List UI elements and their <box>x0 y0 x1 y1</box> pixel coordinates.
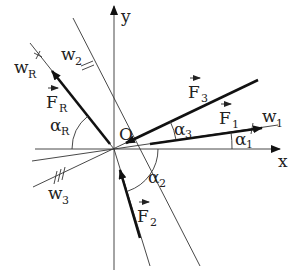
svg-text:3: 3 <box>201 92 208 105</box>
svg-text:3: 3 <box>185 128 192 141</box>
force-diagram: O x y F 1 w 1 α 1 F 3 α 3 w 3 F 2 α 2 w … <box>0 0 296 276</box>
svg-text:2: 2 <box>150 216 157 229</box>
wr-cross-mark <box>34 51 42 59</box>
svg-text:w: w <box>14 57 29 77</box>
x-axis-label: x <box>278 151 288 171</box>
label-w1: w 1 <box>262 106 283 130</box>
label-f1: F 1 <box>219 104 239 131</box>
label-alpha1: α 1 <box>235 129 253 151</box>
angle-arc-alphar <box>72 116 88 149</box>
y-axis-label: y <box>120 6 131 26</box>
svg-text:2: 2 <box>159 177 166 190</box>
svg-text:w: w <box>48 183 63 203</box>
diagram-canvas: O x y F 1 w 1 α 1 F 3 α 3 w 3 F 2 α 2 w … <box>0 0 296 276</box>
svg-text:w: w <box>61 44 76 64</box>
svg-text:w: w <box>262 106 277 126</box>
svg-text:2: 2 <box>75 55 82 68</box>
w2-tick-marks <box>81 61 94 70</box>
label-fr: F R <box>46 88 68 115</box>
angle-arc-alpha1 <box>231 132 232 149</box>
label-f2: F 2 <box>137 202 157 229</box>
svg-text:F: F <box>219 108 231 128</box>
svg-text:F: F <box>188 82 200 102</box>
vector-f2 <box>120 170 140 238</box>
w3-tick-marks <box>54 167 65 184</box>
svg-text:3: 3 <box>62 194 69 207</box>
svg-text:1: 1 <box>246 138 253 151</box>
label-w3: w 3 <box>48 183 69 207</box>
svg-text:R: R <box>28 68 37 81</box>
label-alpha3: α 3 <box>174 119 192 141</box>
origin-label: O <box>119 124 133 144</box>
label-alphar: α R <box>50 115 70 138</box>
svg-text:R: R <box>59 102 68 115</box>
svg-text:F: F <box>137 206 149 226</box>
label-w2: w 2 <box>61 44 82 68</box>
label-wr: w R <box>14 57 37 81</box>
svg-text:R: R <box>61 125 70 138</box>
label-f3: F 3 <box>188 78 208 105</box>
label-alpha2: α 2 <box>148 167 166 190</box>
svg-text:F: F <box>46 92 58 112</box>
svg-text:1: 1 <box>276 117 283 130</box>
